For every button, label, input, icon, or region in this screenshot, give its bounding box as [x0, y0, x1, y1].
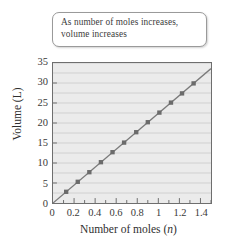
y-tick-label: 20: [24, 118, 48, 129]
y-axis-title: Volume (L): [11, 54, 23, 174]
y-tick-label: 25: [24, 98, 48, 109]
x-axis-title: Number of moles (n): [0, 223, 227, 235]
avogadro-law-figure: As number of moles increases, volume inc…: [0, 0, 227, 246]
y-tick-label: 15: [24, 138, 48, 149]
callout-text: As number of moles increases, volume inc…: [61, 17, 199, 40]
x-axis-title-suffix: ): [173, 223, 177, 235]
plot-area: [52, 62, 212, 204]
data-series-layer: [53, 63, 211, 203]
callout-box: As number of moles increases, volume inc…: [52, 12, 207, 47]
callout-line-1: As number of moles increases,: [61, 17, 178, 27]
y-tick-label: 30: [24, 77, 48, 88]
y-tick-label: 35: [24, 57, 48, 68]
x-axis-title-prefix: Number of moles (: [80, 223, 167, 235]
y-tick-label: 10: [24, 158, 48, 169]
x-tick-label: 1.4: [186, 208, 216, 219]
x-axis-tick-labels: 00.20.40.60.811.21.4: [0, 208, 227, 222]
callout-line-2: volume increases: [61, 29, 127, 39]
y-tick-label: 5: [24, 179, 48, 190]
